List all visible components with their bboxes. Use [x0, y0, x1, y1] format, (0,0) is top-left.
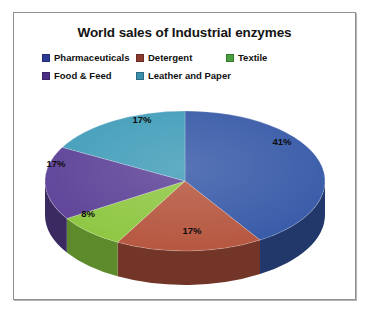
legend-swatch-food-and-feed	[42, 72, 50, 80]
legend-item-textile[interactable]: Textile	[226, 49, 267, 67]
legend-item-food-and-feed[interactable]: Food & Feed	[42, 67, 112, 85]
legend-item-pharmaceuticals[interactable]: Pharmaceuticals	[42, 49, 130, 67]
legend-swatch-pharmaceuticals	[42, 54, 50, 62]
legend-label-textile: Textile	[238, 53, 267, 63]
chart-title: World sales of Industrial enzymes	[14, 25, 355, 40]
pie-chart-svg: 41%17%8%17%17%	[14, 87, 356, 300]
legend-row: Pharmaceuticals Detergent Textile	[42, 49, 332, 67]
legend-swatch-leather-and-paper	[136, 72, 144, 80]
legend-item-leather-and-paper[interactable]: Leather and Paper	[136, 67, 231, 85]
legend-swatch-textile	[226, 54, 234, 62]
pie-slice-value-detergent: 17%	[182, 225, 202, 236]
pie-slice-value-food-feed: 17%	[46, 158, 66, 169]
chart-legend: Pharmaceuticals Detergent Textile Food &…	[42, 49, 332, 85]
pie-slice-value-leather-and-paper: 17%	[132, 114, 152, 125]
pie-chart: 41%17%8%17%17%	[14, 87, 356, 300]
pie-slice-value-pharmaceuticals: 41%	[272, 136, 292, 147]
legend-label-food-and-feed: Food & Feed	[54, 71, 112, 81]
legend-label-leather-and-paper: Leather and Paper	[148, 71, 231, 81]
legend-swatch-detergent	[136, 54, 144, 62]
pie-slice-value-textile: 8%	[81, 208, 95, 219]
chart-frame: World sales of Industrial enzymes Pharma…	[13, 12, 356, 300]
legend-item-detergent[interactable]: Detergent	[136, 49, 192, 67]
legend-row: Food & Feed Leather and Paper	[42, 67, 332, 85]
legend-label-detergent: Detergent	[148, 53, 192, 63]
legend-label-pharmaceuticals: Pharmaceuticals	[54, 53, 130, 63]
